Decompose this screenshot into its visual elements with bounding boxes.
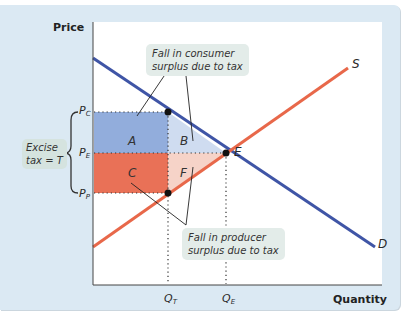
supply-label: S: [352, 58, 360, 70]
x-axis-title: Quantity: [333, 293, 387, 306]
consumer-price-point: [165, 109, 172, 116]
quantity-tax-label: QT: [164, 293, 177, 306]
excise-tax-callout: Excise tax = T: [22, 139, 67, 169]
y-axis-title: Price: [53, 21, 84, 34]
price-consumer-label: PC: [79, 105, 91, 118]
equilibrium-point: [223, 150, 230, 157]
equilibrium-label: E: [234, 146, 242, 158]
region-c-label: C: [128, 166, 136, 180]
price-producer-label: PP: [79, 188, 90, 201]
consumer-surplus-callout: Fall in consumer surplus due to tax: [146, 44, 249, 76]
tax-brace: [66, 112, 78, 193]
region-f-label: F: [180, 166, 187, 180]
demand-label: D: [378, 238, 387, 250]
quantity-equilibrium-label: QE: [222, 293, 235, 306]
producer-price-point: [165, 190, 172, 197]
region-a-label: A: [128, 134, 136, 148]
producer-surplus-callout: Fall in producer surplus due to tax: [182, 228, 285, 260]
price-equilibrium-label: PE: [79, 147, 90, 160]
region-b-label: B: [180, 134, 188, 148]
region-b: [168, 112, 226, 153]
